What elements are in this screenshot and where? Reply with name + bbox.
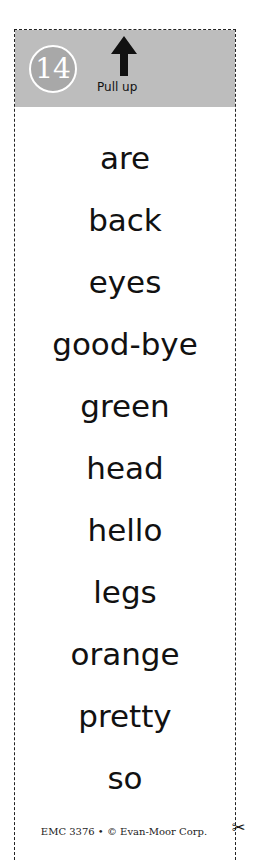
- number-badge: 14: [29, 45, 77, 93]
- copyright-footer: EMC 3376 • © Evan-Moor Corp.: [14, 826, 234, 837]
- word-item: head: [15, 437, 235, 499]
- arrow-up-icon: [111, 36, 137, 76]
- word-item: green: [15, 375, 235, 437]
- word-item: good-bye: [15, 313, 235, 375]
- word-item: back: [15, 189, 235, 251]
- word-item: hello: [15, 499, 235, 561]
- word-item: pretty: [15, 685, 235, 747]
- word-item: are: [15, 127, 235, 189]
- word-item: so: [15, 747, 235, 809]
- strip-header: 14 Pull up: [15, 30, 235, 107]
- scissors-icon: ✂: [232, 818, 245, 837]
- word-item: eyes: [15, 251, 235, 313]
- pull-up-label: Pull up: [97, 80, 137, 94]
- word-item: legs: [15, 561, 235, 623]
- word-item: orange: [15, 623, 235, 685]
- word-list: are back eyes good-bye green head hello …: [15, 107, 235, 809]
- word-strip: 14 Pull up are back eyes good-bye green …: [14, 29, 236, 860]
